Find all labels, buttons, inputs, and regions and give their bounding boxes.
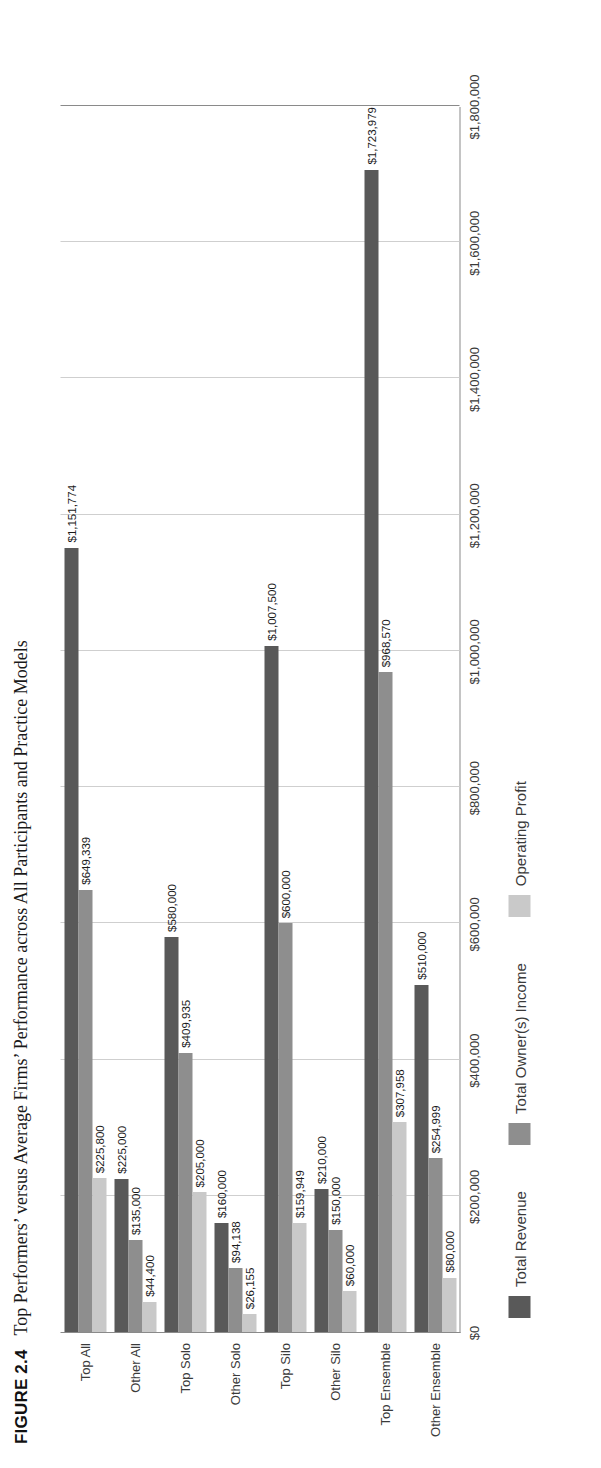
bar-group: $210,000$150,000$60,000 xyxy=(310,107,360,1332)
bar-value-label: $160,000 xyxy=(214,1170,228,1218)
legend-label: Total Revenue xyxy=(511,1191,528,1287)
bar[interactable] xyxy=(64,548,78,1332)
axis-tick-label: $0 xyxy=(466,1326,481,1340)
bar-value-label: $1,151,774 xyxy=(64,485,78,543)
bar[interactable] xyxy=(114,1179,128,1332)
bar-value-label: $510,000 xyxy=(414,932,428,980)
bar[interactable] xyxy=(78,890,92,1332)
gridline xyxy=(60,105,459,106)
bar-row: $80,000 xyxy=(442,107,456,1332)
bar-row: $44,400 xyxy=(142,107,156,1332)
bar-value-label: $409,935 xyxy=(178,1000,192,1048)
bar-value-label: $225,800 xyxy=(92,1125,106,1173)
category-label: Other Ensemble xyxy=(427,1343,442,1463)
legend-item[interactable]: Total Owner(s) Income xyxy=(508,963,530,1145)
bar-group: $1,723,979$968,570$307,958 xyxy=(360,107,410,1332)
bar[interactable] xyxy=(278,923,292,1332)
bar-row: $26,155 xyxy=(242,107,256,1332)
category-label: Other Solo xyxy=(227,1343,242,1463)
bar-row: $600,000 xyxy=(278,107,292,1332)
bar-value-label: $205,000 xyxy=(192,1139,206,1187)
bar-value-label: $150,000 xyxy=(328,1177,342,1225)
bar-group: $160,000$94,138$26,155 xyxy=(210,107,260,1332)
legend-swatch xyxy=(508,895,530,917)
axis-tick-label: $1,000,000 xyxy=(466,619,481,684)
bar[interactable] xyxy=(428,1158,442,1332)
bar[interactable] xyxy=(442,1278,456,1332)
bar[interactable] xyxy=(228,1268,242,1332)
bar-group: $1,007,500$600,000$159,949 xyxy=(260,107,310,1332)
bar-value-label: $94,138 xyxy=(228,1221,242,1263)
bar-row: $150,000 xyxy=(328,107,342,1332)
bar-value-label: $26,155 xyxy=(242,1268,256,1310)
bar-value-label: $1,723,979 xyxy=(364,107,378,165)
bar-row: $1,151,774 xyxy=(64,107,78,1332)
legend-swatch xyxy=(508,1296,530,1318)
bar[interactable] xyxy=(342,1291,356,1332)
bar[interactable] xyxy=(178,1053,192,1332)
bar-row: $225,800 xyxy=(92,107,106,1332)
bar[interactable] xyxy=(314,1189,328,1332)
bar-row: $307,958 xyxy=(392,107,406,1332)
legend-item[interactable]: Total Revenue xyxy=(508,1191,530,1318)
legend-swatch xyxy=(508,1123,530,1145)
bar-row: $409,935 xyxy=(178,107,192,1332)
bar[interactable] xyxy=(414,985,428,1332)
rotated-figure-canvas: FIGURE 2.4Top Performers’ versus Average… xyxy=(0,0,601,1468)
category-label: Other All xyxy=(127,1343,142,1463)
figure-page: FIGURE 2.4Top Performers’ versus Average… xyxy=(0,0,601,1468)
bar-group: $510,000$254,999$80,000 xyxy=(410,107,460,1332)
axis-tick-label: $1,400,000 xyxy=(466,347,481,412)
bar-value-label: $649,339 xyxy=(78,837,92,885)
figure-number: FIGURE 2.4 xyxy=(11,1349,30,1444)
bar-row: $135,000 xyxy=(128,107,142,1332)
bar-row: $1,723,979 xyxy=(364,107,378,1332)
bar-group: $225,000$135,000$44,400 xyxy=(110,107,160,1332)
bar[interactable] xyxy=(128,1240,142,1332)
bar-value-label: $307,958 xyxy=(392,1069,406,1117)
bar[interactable] xyxy=(142,1302,156,1332)
bar-row: $205,000 xyxy=(192,107,206,1332)
bar-value-label: $44,400 xyxy=(142,1255,156,1297)
legend-label: Operating Profit xyxy=(511,781,528,886)
bar[interactable] xyxy=(242,1314,256,1332)
bar-row: $94,138 xyxy=(228,107,242,1332)
axis-tick-label: $200,000 xyxy=(466,1170,481,1224)
bar[interactable] xyxy=(264,646,278,1332)
bar[interactable] xyxy=(164,937,178,1332)
bar[interactable] xyxy=(392,1122,406,1332)
bar-row: $225,000 xyxy=(114,107,128,1332)
bar[interactable] xyxy=(364,170,378,1332)
axis-tick-label: $400,000 xyxy=(466,1033,481,1087)
bar-row: $210,000 xyxy=(314,107,328,1332)
category-label: Top Silo xyxy=(277,1343,292,1463)
bar-row: $159,949 xyxy=(292,107,306,1332)
figure-caption-text: Top Performers’ versus Average Firms’ Pe… xyxy=(10,640,30,1335)
axis-tick-label: $600,000 xyxy=(466,897,481,951)
category-label: Top Solo xyxy=(177,1343,192,1463)
bar[interactable] xyxy=(214,1223,228,1332)
category-label: Other Silo xyxy=(327,1343,342,1463)
bar-value-label: $210,000 xyxy=(314,1136,328,1184)
bar-row: $1,007,500 xyxy=(264,107,278,1332)
figure-caption: FIGURE 2.4Top Performers’ versus Average… xyxy=(10,24,40,1444)
bar[interactable] xyxy=(192,1192,206,1332)
bar[interactable] xyxy=(92,1178,106,1332)
bar-row: $510,000 xyxy=(414,107,428,1332)
bar-value-label: $135,000 xyxy=(128,1187,142,1235)
bar-row: $580,000 xyxy=(164,107,178,1332)
bar[interactable] xyxy=(328,1230,342,1332)
bar-value-label: $80,000 xyxy=(442,1231,456,1273)
bar-row: $649,339 xyxy=(78,107,92,1332)
bar-value-label: $254,999 xyxy=(428,1105,442,1153)
category-label: Top All xyxy=(77,1343,92,1463)
axis-tick-label: $1,600,000 xyxy=(466,211,481,276)
bar[interactable] xyxy=(292,1223,306,1332)
bar[interactable] xyxy=(378,672,392,1332)
bar-value-label: $225,000 xyxy=(114,1126,128,1174)
bar-row: $60,000 xyxy=(342,107,356,1332)
bar-row: $254,999 xyxy=(428,107,442,1332)
legend-item[interactable]: Operating Profit xyxy=(508,781,530,917)
legend-label: Total Owner(s) Income xyxy=(511,963,528,1114)
axis-tick-label: $800,000 xyxy=(466,761,481,815)
